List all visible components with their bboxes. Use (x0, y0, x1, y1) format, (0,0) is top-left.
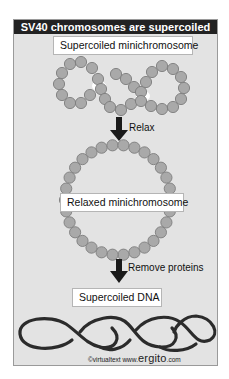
relax-step-label: Relax (129, 122, 155, 133)
remove-proteins-step-label: Remove proteins (128, 262, 204, 273)
relaxed-minichromosome-label: Relaxed minichromosome (60, 193, 184, 212)
credit-prefix: ©virtualtext www. (88, 356, 138, 363)
relax-arrow-icon (110, 117, 128, 141)
credit-suffix: .com (167, 356, 181, 363)
supercoiled-minichromosome-label: Supercoiled minichromosome (53, 36, 193, 55)
supercoiled-dna-label: Supercoiled DNA (72, 288, 162, 307)
supercoiled-dna-strand (20, 316, 215, 350)
diagram-artwork (0, 0, 229, 379)
credit-brand: ergito (138, 352, 167, 364)
supercoiled-minichromosome-beads (53, 56, 189, 115)
copyright-credit: ©virtualtext www.ergito.com (88, 352, 181, 364)
remove-proteins-arrow-icon (110, 259, 128, 283)
